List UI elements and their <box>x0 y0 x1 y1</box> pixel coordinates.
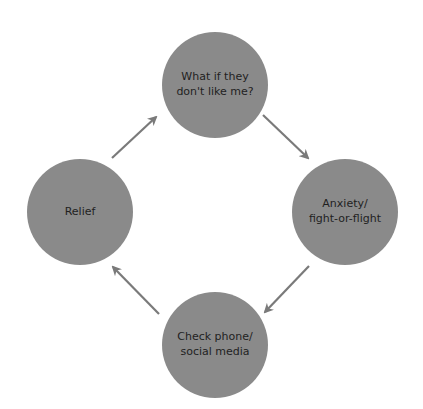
node-label: What if they don't like me? <box>176 70 253 100</box>
node-relief: Relief <box>27 159 133 265</box>
node-check-phone-social-media: Check phone/ social media <box>162 292 268 398</box>
node-what-if-they-dont-like-me: What if they don't like me? <box>162 32 268 138</box>
node-label: Relief <box>65 205 96 220</box>
arrow-top-to-right <box>263 115 308 158</box>
arrow-left-to-top <box>112 117 156 158</box>
node-label: Anxiety/ fight-or-flight <box>309 197 381 227</box>
node-anxiety-fight-or-flight: Anxiety/ fight-or-flight <box>292 159 398 265</box>
arrow-right-to-bottom <box>265 266 309 312</box>
node-label: Check phone/ social media <box>177 330 252 360</box>
arrow-bottom-to-left <box>113 267 159 314</box>
